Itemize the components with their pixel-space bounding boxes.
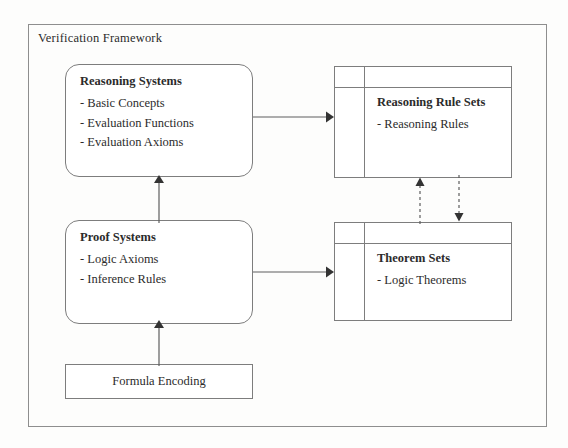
edge-proof-systems-to-theorem-sets xyxy=(253,265,337,279)
store-left-divider xyxy=(364,67,365,177)
bullet-basic-concepts: - Basic Concepts xyxy=(80,94,194,114)
edge-reasoning-rule-sets-to-theorem-sets xyxy=(452,175,466,224)
edge-proof-systems-to-reasoning-systems xyxy=(152,173,166,223)
bullet-logic-theorems: - Logic Theorems xyxy=(377,271,466,291)
node-proof-systems[interactable]: Proof Systems - Logic Axioms - Inference… xyxy=(65,220,253,324)
node-reasoning-systems-bullets: - Basic Concepts - Evaluation Functions … xyxy=(80,94,194,153)
node-reasoning-systems-title: Reasoning Systems xyxy=(80,74,182,89)
node-proof-systems-bullets: - Logic Axioms - Inference Rules xyxy=(80,250,166,289)
bullet-logic-axioms: - Logic Axioms xyxy=(80,250,166,270)
node-reasoning-rule-sets[interactable]: Reasoning Rule Sets - Reasoning Rules xyxy=(334,66,512,178)
edge-formula-encoding-to-proof-systems xyxy=(152,318,166,366)
node-formula-encoding-label: Formula Encoding xyxy=(112,374,205,389)
edge-theorem-sets-to-reasoning-rule-sets xyxy=(413,175,427,224)
bullet-evaluation-functions: - Evaluation Functions xyxy=(80,114,194,134)
node-reasoning-rule-sets-title: Reasoning Rule Sets xyxy=(377,95,485,110)
node-reasoning-systems[interactable]: Reasoning Systems - Basic Concepts - Eva… xyxy=(65,64,253,177)
node-formula-encoding[interactable]: Formula Encoding xyxy=(65,364,253,399)
edge-reasoning-systems-to-reasoning-rule-sets xyxy=(253,110,337,124)
store-top-divider xyxy=(335,243,511,244)
bullet-inference-rules: - Inference Rules xyxy=(80,270,166,290)
bullet-evaluation-axioms: - Evaluation Axioms xyxy=(80,133,194,153)
node-theorem-sets-bullets: - Logic Theorems xyxy=(377,271,466,291)
verification-framework-title: Verification Framework xyxy=(38,31,162,46)
node-proof-systems-title: Proof Systems xyxy=(80,230,156,245)
diagram-canvas: Verification Framework Reasoning Systems… xyxy=(0,0,568,448)
node-theorem-sets-title: Theorem Sets xyxy=(377,251,450,266)
node-theorem-sets[interactable]: Theorem Sets - Logic Theorems xyxy=(334,222,512,321)
bullet-reasoning-rules: - Reasoning Rules xyxy=(377,115,469,135)
store-top-divider xyxy=(335,87,511,88)
store-left-divider xyxy=(364,223,365,320)
node-reasoning-rule-sets-bullets: - Reasoning Rules xyxy=(377,115,469,135)
